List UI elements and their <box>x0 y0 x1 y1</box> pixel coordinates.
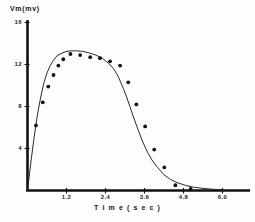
data-point <box>46 85 50 89</box>
data-point <box>126 80 130 84</box>
data-point <box>162 166 166 170</box>
x-axis-title: T i m e ( s e c ) <box>0 204 255 211</box>
y-tick-label: 16 <box>8 19 22 25</box>
y-tick-label: 8 <box>8 103 22 109</box>
data-point <box>88 55 92 59</box>
data-point <box>61 57 65 61</box>
y-axis-title: Vm(mv) <box>10 5 40 12</box>
data-point <box>52 73 56 77</box>
data-point <box>69 52 73 56</box>
plot-canvas <box>0 0 255 222</box>
data-point <box>108 59 112 63</box>
data-point <box>143 125 147 129</box>
y-tick-label: 12 <box>8 61 22 67</box>
x-tick-label: 3.6 <box>135 194 155 200</box>
data-point <box>56 64 60 68</box>
data-point <box>98 56 102 60</box>
data-point <box>134 103 138 107</box>
data-point <box>173 183 177 187</box>
data-point <box>41 100 45 104</box>
fitted-curve <box>28 51 223 191</box>
chart-figure: Vm(mv) T i m e ( s e c ) 481216 1.22.43.… <box>0 0 255 222</box>
x-tick-label: 1.2 <box>57 194 77 200</box>
x-tick-label: 2.4 <box>96 194 116 200</box>
data-point <box>152 148 156 152</box>
y-tick-label: 4 <box>8 145 22 151</box>
data-point <box>78 53 82 57</box>
x-tick-label: 4.8 <box>174 194 194 200</box>
data-point <box>118 64 122 68</box>
x-tick-label: 6.0 <box>213 194 233 200</box>
data-point <box>189 187 193 191</box>
data-point <box>34 124 38 128</box>
data-point-group <box>34 52 193 191</box>
